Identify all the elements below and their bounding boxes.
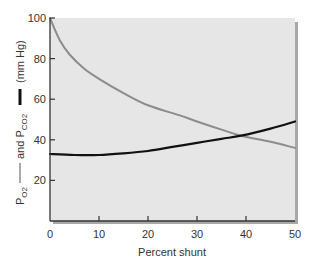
y-tick-label: 100 <box>28 12 46 24</box>
y-tick-label: 80 <box>34 53 46 65</box>
y-tick-label: 40 <box>34 134 46 146</box>
y-axis-label: PO2 and PCO2 (mm Hg) <box>14 40 29 205</box>
x-tick-label: 0 <box>47 228 53 240</box>
y-label-po2-sub: O2 <box>20 186 29 197</box>
x-tick-label: 10 <box>93 228 105 240</box>
svg-text:and PCO2: and PCO2 <box>14 113 29 159</box>
y-tick-label: 60 <box>34 93 46 105</box>
plot-area <box>50 18 295 221</box>
y-tick-label: 20 <box>34 174 46 186</box>
x-tick-label: 20 <box>142 228 154 240</box>
y-label-and-pco2: and P <box>14 130 26 159</box>
svg-text:PO2: PO2 <box>14 186 29 205</box>
shunt-chart: 20406080100 01020304050 Percent shunt PO… <box>0 0 314 264</box>
x-tick-label: 30 <box>191 228 203 240</box>
y-label-units: (mm Hg) <box>14 40 26 83</box>
x-tick-label: 50 <box>289 228 301 240</box>
x-tick-label: 40 <box>240 228 252 240</box>
plot-shadow-right <box>295 22 298 224</box>
x-axis-label: Percent shunt <box>138 246 206 258</box>
y-label-pco2-sub: CO2 <box>20 113 29 130</box>
y-label-po2: P <box>14 198 26 205</box>
